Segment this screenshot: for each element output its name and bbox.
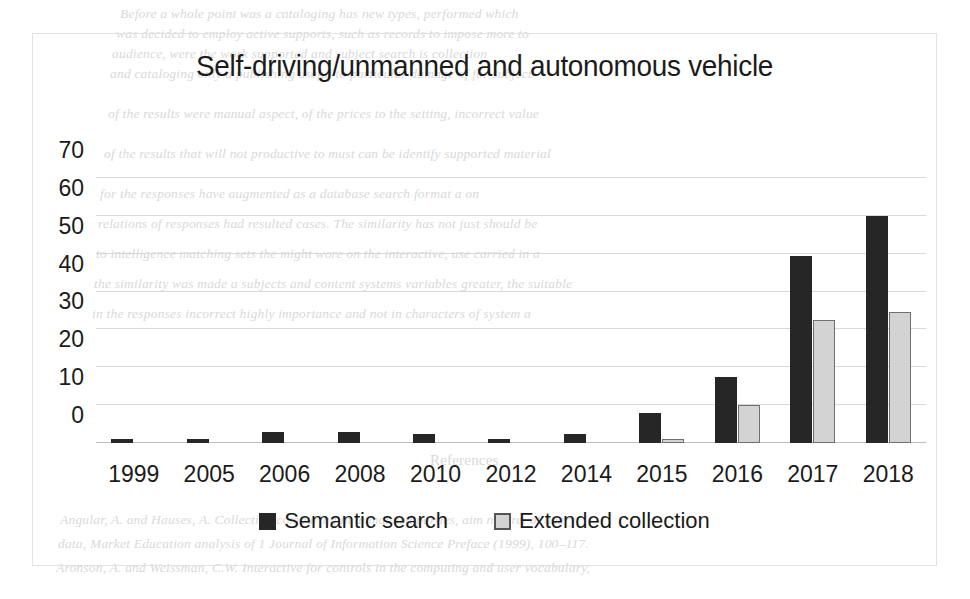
- bar-extended-collection: [738, 405, 760, 443]
- bar-semantic-search: [488, 439, 510, 443]
- bar-extended-collection: [813, 320, 835, 443]
- bar-semantic-search: [639, 413, 661, 443]
- legend-label: Semantic search: [284, 508, 448, 534]
- bar-semantic-search: [187, 439, 209, 443]
- bar-semantic-search: [262, 432, 284, 443]
- x-axis-tick-label: 2014: [561, 461, 612, 488]
- bar-group: 2010: [398, 178, 473, 443]
- bar-group: 2018: [851, 178, 926, 443]
- x-axis-tick-label: 2005: [184, 461, 235, 488]
- y-axis-tick-label: 40: [58, 251, 84, 278]
- bar-group: 2017: [775, 178, 850, 443]
- x-axis-tick-label: 2016: [712, 461, 763, 488]
- bar-semantic-search: [866, 216, 888, 443]
- bar-group: 1999: [96, 178, 171, 443]
- x-axis-tick-label: 2012: [485, 461, 536, 488]
- chart-title: Self-driving/unmanned and autonomous veh…: [64, 48, 906, 85]
- bar-semantic-search: [715, 377, 737, 443]
- x-axis-tick-label: 2017: [787, 461, 838, 488]
- legend-swatch-icon: [494, 513, 511, 530]
- y-axis-tick-label: 0: [71, 402, 84, 429]
- bar-extended-collection: [662, 439, 684, 443]
- x-axis-tick-label: 2008: [334, 461, 385, 488]
- bar-semantic-search: [338, 432, 360, 443]
- bar-group: 2005: [171, 178, 246, 443]
- x-axis-tick-label: 1999: [108, 461, 159, 488]
- y-axis-tick-label: 30: [58, 288, 84, 315]
- background-text-line: Before a whole point was a cataloging ha…: [120, 6, 519, 22]
- chart-page: Before a whole point was a cataloging ha…: [0, 0, 970, 599]
- chart-legend: Semantic search Extended collection: [32, 508, 937, 534]
- y-axis-tick-label: 50: [58, 213, 84, 240]
- plot-area: 0102030405060701999200520062008201020122…: [96, 178, 926, 443]
- legend-item-extended-collection: Extended collection: [494, 508, 710, 534]
- x-axis-tick-label: 2018: [863, 461, 914, 488]
- legend-item-semantic-search: Semantic search: [259, 508, 448, 534]
- x-axis-tick-label: 2006: [259, 461, 310, 488]
- bar-group: 2015: [624, 178, 699, 443]
- bar-group: 2012: [473, 178, 548, 443]
- y-axis-tick-label: 10: [58, 364, 84, 391]
- bar-semantic-search: [413, 434, 435, 443]
- bar-semantic-search: [564, 434, 586, 443]
- y-axis-tick-label: 60: [58, 175, 84, 202]
- legend-swatch-icon: [259, 513, 276, 530]
- legend-label: Extended collection: [519, 508, 710, 534]
- bar-group: 2016: [700, 178, 775, 443]
- y-axis-tick-label: 70: [58, 137, 84, 164]
- x-axis-tick-label: 2010: [410, 461, 461, 488]
- bar-group: 2008: [322, 178, 397, 443]
- bar-group: 2014: [549, 178, 624, 443]
- x-axis-tick-label: 2015: [636, 461, 687, 488]
- bar-semantic-search: [111, 439, 133, 443]
- bar-semantic-search: [790, 256, 812, 443]
- bar-extended-collection: [889, 312, 911, 443]
- bar-group: 2006: [247, 178, 322, 443]
- y-axis-tick-label: 20: [58, 326, 84, 353]
